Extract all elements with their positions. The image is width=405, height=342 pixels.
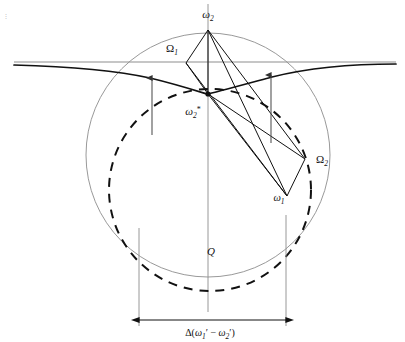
label-Omega1: Ω1 <box>166 42 178 57</box>
label-omega2-star: ω2* <box>185 105 201 120</box>
label-Omega2: Ω2 <box>316 153 328 168</box>
dimension-label: Δ(ω1′ − ω2′) <box>185 327 235 341</box>
edge-omega2-to-Omega2 <box>208 30 305 159</box>
edge-Omega2-to-omega1 <box>287 159 305 196</box>
edge-omega2-to-Omega1 <box>186 30 208 63</box>
node-omega2-star <box>205 91 210 96</box>
edge-omega2star-to-Omega2 <box>208 94 305 159</box>
dispersion-curve-left <box>14 65 207 94</box>
label-omega1: ω1 <box>273 192 284 206</box>
geometric-diagram: ω2 Ω1 ω2* Ω2 ω1 Q Δ(ω1′ − ω2′) <box>0 0 405 342</box>
figure-root: ⋮ <box>0 0 405 342</box>
edge-omega2star-to-omega1 <box>208 94 287 196</box>
label-Q: Q <box>207 245 215 257</box>
